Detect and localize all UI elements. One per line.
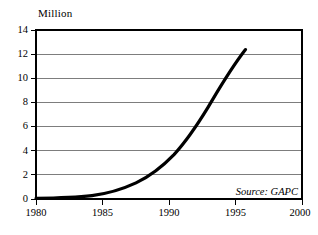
plot-background: [36, 30, 302, 199]
x-tick-label-1990: 1990: [149, 207, 189, 218]
y-tick-label-6: 6: [6, 120, 28, 131]
x-tick-label-1980: 1980: [16, 207, 56, 218]
y-tick-label-8: 8: [6, 96, 28, 107]
y-tick-label-2: 2: [6, 169, 28, 180]
y-tick-label-4: 4: [6, 145, 28, 156]
y-tick-label-0: 0: [6, 193, 28, 204]
x-tick-label-1995: 1995: [216, 207, 256, 218]
source-annotation: Source: GAPC: [236, 186, 298, 197]
x-tick-label-1985: 1985: [83, 207, 123, 218]
y-tick-label-14: 14: [6, 24, 28, 35]
y-tick-label-12: 12: [6, 48, 28, 59]
x-tick-label-2000: 2000: [280, 207, 318, 218]
chart-container: Million: [0, 0, 318, 235]
y-tick-label-10: 10: [6, 72, 28, 83]
plot-area: [0, 0, 318, 235]
